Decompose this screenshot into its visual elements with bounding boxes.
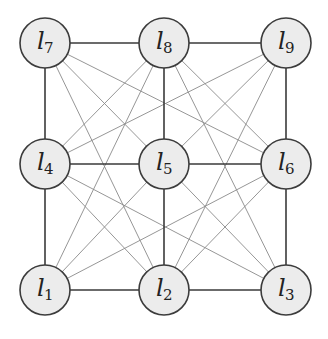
node-l9: l9 xyxy=(261,18,311,68)
node-subscript: 1 xyxy=(44,286,54,304)
node-l3: l3 xyxy=(261,265,311,315)
node-l2: l2 xyxy=(139,265,189,315)
node-l6: l6 xyxy=(261,139,311,189)
node-subscript: 4 xyxy=(44,160,54,178)
node-l4: l4 xyxy=(20,139,70,189)
node-subscript: 6 xyxy=(285,160,295,178)
node-subscript: 2 xyxy=(163,286,173,304)
node-subscript: 9 xyxy=(285,39,295,57)
node-subscript: 7 xyxy=(44,39,54,57)
node-subscript: 3 xyxy=(285,286,295,304)
node-l7: l7 xyxy=(20,18,70,68)
figure-caption-truncated: ​ xyxy=(0,328,328,339)
graph-diagram: l7l8l9l4l5l6l1l2l3 xyxy=(0,0,328,339)
node-l8: l8 xyxy=(139,18,189,68)
caption-text: ​ xyxy=(0,328,328,339)
node-l1: l1 xyxy=(20,265,70,315)
node-l5: l5 xyxy=(139,139,189,189)
node-subscript: 8 xyxy=(163,39,173,57)
node-subscript: 5 xyxy=(163,160,173,178)
